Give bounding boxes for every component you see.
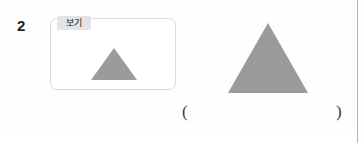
answer-input[interactable] <box>190 103 334 121</box>
answer-paren-right: ) <box>336 103 342 121</box>
answer-paren-left: ( <box>182 103 188 121</box>
triangle-shape-small <box>91 45 137 80</box>
question-number: 2 <box>17 18 25 34</box>
page-edge-rule <box>357 0 358 143</box>
triangle-shape-large <box>228 20 308 93</box>
example-panel-label: 보기 <box>57 16 91 30</box>
page-bottom-margin <box>0 130 357 143</box>
worksheet-page: 2 보기 ( ) <box>0 0 364 143</box>
